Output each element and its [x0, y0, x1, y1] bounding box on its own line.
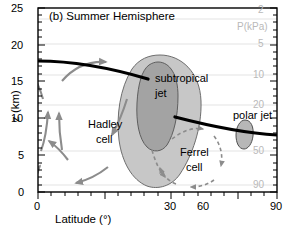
ferrel-cell-label-line2: cell — [186, 162, 203, 173]
subtropical-jet-label-line1: subtropical — [155, 73, 208, 84]
x-tick-label-30: 30 — [164, 201, 176, 212]
hadley-cell-label-line2: cell — [96, 134, 113, 145]
p-axis-title: P(kPa) — [237, 22, 268, 32]
x-tick-label-0: 0 — [34, 201, 40, 212]
y-tick-label-15: 15 — [11, 76, 23, 87]
x-tick-label-90: 90 — [270, 201, 282, 212]
panel-title: (b) Summer Hemisphere — [49, 11, 175, 23]
y-tick-label-25: 25 — [11, 3, 23, 14]
ferrel-cell-label-line1: Ferrel — [180, 147, 209, 158]
p-tick-label-5: 5 — [258, 39, 264, 49]
y-tick-label-0: 0 — [18, 187, 24, 198]
x-tick-label-60: 60 — [197, 201, 209, 212]
x-axis-ticks — [38, 192, 277, 199]
summer-hemisphere-circulation-figure: (b) Summer Hemisphere 25 20 15 10 5 0 z … — [0, 0, 295, 228]
x-axis-title: Latitude (°) — [55, 214, 111, 226]
subtropical-jet-label-line2: jet — [155, 88, 167, 99]
y-axis-title: z (km) — [9, 90, 21, 122]
polar-jet-blob — [236, 120, 253, 149]
polar-jet-label: polar jet — [233, 110, 272, 121]
hadley-cell-label-line1: Hadley — [88, 119, 122, 130]
p-tick-label-90: 90 — [253, 180, 264, 190]
y-tick-label-5: 5 — [18, 150, 24, 161]
p-tick-label-2: 2 — [258, 5, 264, 15]
p-tick-label-50: 50 — [253, 146, 264, 156]
p-tick-label-10: 10 — [253, 70, 264, 80]
y-tick-label-20: 20 — [11, 40, 23, 51]
